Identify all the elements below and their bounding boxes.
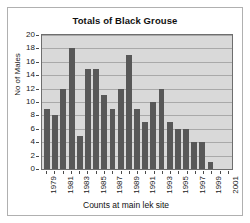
bar-slot bbox=[76, 35, 84, 169]
y-tick-mark bbox=[36, 115, 39, 116]
y-tick-label: 2 bbox=[31, 152, 35, 160]
x-tick-mark bbox=[228, 171, 229, 174]
x-tick-mark bbox=[71, 171, 72, 174]
x-tick-mark bbox=[79, 171, 80, 174]
plot-area bbox=[41, 34, 233, 170]
y-tick-mark bbox=[36, 62, 39, 63]
bar-slot bbox=[157, 35, 165, 169]
x-tick-mark bbox=[220, 171, 221, 174]
x-tick-mark bbox=[129, 171, 130, 174]
x-tick-label: 2001 bbox=[232, 176, 240, 194]
y-tick-label: 6 bbox=[31, 125, 35, 133]
x-tick-mark bbox=[54, 171, 55, 174]
bar bbox=[85, 69, 91, 170]
bar bbox=[191, 142, 197, 169]
bar-slot bbox=[190, 35, 198, 169]
bar-slot bbox=[174, 35, 182, 169]
x-tick-mark bbox=[112, 171, 113, 174]
x-tick-mark bbox=[87, 171, 88, 174]
bar bbox=[199, 142, 205, 169]
bar-slot bbox=[51, 35, 59, 169]
x-tick-mark bbox=[96, 171, 97, 174]
bar-series bbox=[42, 35, 232, 169]
y-tick-label: 20 bbox=[26, 31, 35, 39]
bar bbox=[183, 129, 189, 169]
bar-slot bbox=[43, 35, 51, 169]
y-tick-mark bbox=[36, 75, 39, 76]
bar bbox=[175, 129, 181, 169]
y-tick-label: 14 bbox=[26, 71, 35, 79]
y-tick-label: 4 bbox=[31, 138, 35, 146]
chart-title: Totals of Black Grouse bbox=[8, 15, 242, 26]
y-tick-mark bbox=[36, 142, 39, 143]
bar-slot bbox=[198, 35, 206, 169]
y-tick-label: 0 bbox=[31, 165, 35, 173]
bar-slot bbox=[223, 35, 231, 169]
y-axis: 02468101214161820 bbox=[8, 34, 39, 170]
bar-slot bbox=[215, 35, 223, 169]
x-tick-mark bbox=[137, 171, 138, 174]
bar-slot bbox=[100, 35, 108, 169]
bar-slot bbox=[166, 35, 174, 169]
y-tick-mark bbox=[36, 156, 39, 157]
chart-container: Totals of Black Grouse No of Males 02468… bbox=[7, 7, 243, 216]
y-tick-label: 8 bbox=[31, 111, 35, 119]
bar bbox=[52, 115, 58, 169]
y-tick-mark bbox=[36, 48, 39, 49]
bar bbox=[93, 69, 99, 170]
bar bbox=[44, 109, 50, 169]
bar-slot bbox=[206, 35, 214, 169]
bar-slot bbox=[117, 35, 125, 169]
bar-slot bbox=[182, 35, 190, 169]
x-tick-mark bbox=[187, 171, 188, 174]
x-tick-mark bbox=[154, 171, 155, 174]
bar-slot bbox=[133, 35, 141, 169]
bar bbox=[110, 109, 116, 169]
y-tick-mark bbox=[36, 35, 39, 36]
bar bbox=[208, 162, 214, 169]
bar bbox=[167, 122, 173, 169]
x-tick-mark bbox=[121, 171, 122, 174]
x-tick-mark bbox=[170, 171, 171, 174]
x-tick-mark bbox=[104, 171, 105, 174]
bar bbox=[118, 89, 124, 169]
y-tick-label: 10 bbox=[26, 98, 35, 106]
x-axis-title: Counts at main lek site bbox=[8, 200, 244, 210]
bar-slot bbox=[141, 35, 149, 169]
x-tick-mark bbox=[203, 171, 204, 174]
bar-slot bbox=[84, 35, 92, 169]
bar bbox=[101, 95, 107, 169]
bar-slot bbox=[108, 35, 116, 169]
bar bbox=[150, 102, 156, 169]
x-tick-mark bbox=[46, 171, 47, 174]
y-tick-label: 12 bbox=[26, 85, 35, 93]
bar bbox=[126, 55, 132, 169]
bar bbox=[77, 136, 83, 170]
bar-slot bbox=[59, 35, 67, 169]
bar bbox=[159, 89, 165, 169]
x-tick-mark bbox=[162, 171, 163, 174]
x-tick-mark bbox=[195, 171, 196, 174]
bar bbox=[60, 89, 66, 169]
x-tick-mark bbox=[63, 171, 64, 174]
bar-slot bbox=[92, 35, 100, 169]
bar-slot bbox=[125, 35, 133, 169]
y-tick-label: 16 bbox=[26, 58, 35, 66]
y-tick-mark bbox=[36, 169, 39, 170]
bar-slot bbox=[68, 35, 76, 169]
x-tick-mark bbox=[178, 171, 179, 174]
x-tick-mark bbox=[211, 171, 212, 174]
bar bbox=[69, 48, 75, 169]
bar bbox=[142, 122, 148, 169]
bar bbox=[134, 109, 140, 169]
y-tick-mark bbox=[36, 129, 39, 130]
x-tick-mark bbox=[145, 171, 146, 174]
y-tick-mark bbox=[36, 102, 39, 103]
bar-slot bbox=[149, 35, 157, 169]
y-tick-label: 18 bbox=[26, 44, 35, 52]
y-tick-mark bbox=[36, 89, 39, 90]
